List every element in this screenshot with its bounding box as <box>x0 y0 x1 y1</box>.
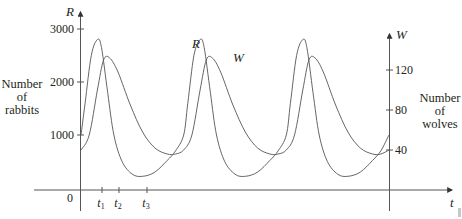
svg-text:Number: Number <box>420 91 462 105</box>
x-tick-origin: 0 <box>67 191 73 205</box>
x-axis-ticks: 0 t1 t2 t3 <box>67 187 150 211</box>
x-tick-t1: t1 <box>97 196 104 211</box>
right-tick-80: 80 <box>395 103 407 117</box>
left-tick-3000: 3000 <box>50 22 74 36</box>
curve-label-W: W <box>233 50 245 65</box>
svg-text:Number: Number <box>2 77 44 91</box>
svg-text:of: of <box>435 104 446 118</box>
curve-label-R: R <box>191 36 200 51</box>
svg-text:wolves: wolves <box>422 117 458 131</box>
x-tick-t2: t2 <box>114 196 121 211</box>
left-axis-caption: Number of rabbits <box>2 77 44 117</box>
left-tick-1000: 1000 <box>50 128 74 142</box>
x-tick-t3: t3 <box>142 196 149 211</box>
left-axis-letter-R: R <box>65 4 74 19</box>
right-axis-ticks: 120 80 40 <box>386 63 413 157</box>
x-axis-letter-t: t <box>450 195 454 210</box>
svg-text:of: of <box>17 90 28 104</box>
right-axis-letter-W: W <box>396 27 408 42</box>
predator-prey-chart: 3000 2000 1000 120 80 40 0 t1 t2 t3 R W … <box>0 0 462 219</box>
left-axis-ticks: 3000 2000 1000 <box>50 22 84 142</box>
right-tick-40: 40 <box>395 143 407 157</box>
svg-text:rabbits: rabbits <box>5 103 39 117</box>
left-tick-2000: 2000 <box>50 75 74 89</box>
corner-mark <box>458 208 461 217</box>
wolf-population-curve <box>81 56 389 154</box>
right-axis-caption: Number of wolves <box>420 91 462 131</box>
right-tick-120: 120 <box>395 63 413 77</box>
